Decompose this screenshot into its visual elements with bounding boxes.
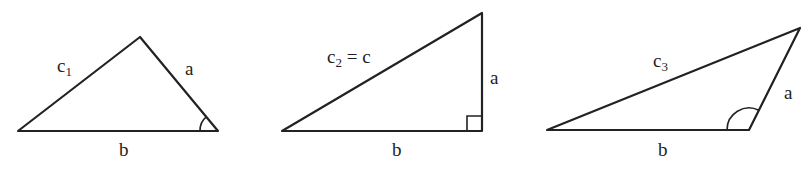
triangle-3-obtuse xyxy=(547,28,800,130)
triangle-1-acute xyxy=(18,37,218,131)
triangle-3-side-a-label: a xyxy=(784,83,792,102)
triangle-2-outline xyxy=(282,13,482,131)
triangle-2-side-a-label: a xyxy=(490,68,498,87)
triangle-2-right-angle-marker xyxy=(467,116,482,131)
triangle-2-side-b-label: b xyxy=(392,140,402,159)
triangle-3-side-b-label: b xyxy=(658,140,668,159)
triangle-1-side-a-label: a xyxy=(185,59,193,78)
triangle-1-side-b-label: b xyxy=(119,140,129,159)
triangle-1-side-c-label: c1 xyxy=(57,56,72,78)
side-c-subscript: 1 xyxy=(65,64,72,79)
triangle-1-angle-arc xyxy=(200,117,207,131)
side-c-subscript: 3 xyxy=(661,59,668,74)
side-c-equals-c: = c xyxy=(342,46,371,67)
triangle-2-right xyxy=(282,13,482,131)
triangle-1-outline xyxy=(18,37,218,131)
triangle-3-outline xyxy=(547,28,800,130)
triangle-diagram: c1 a b c2 = c a b c3 a b xyxy=(0,0,805,187)
triangle-3-side-c-label: c3 xyxy=(653,51,668,73)
triangle-2-side-c-label: c2 = c xyxy=(327,47,371,69)
